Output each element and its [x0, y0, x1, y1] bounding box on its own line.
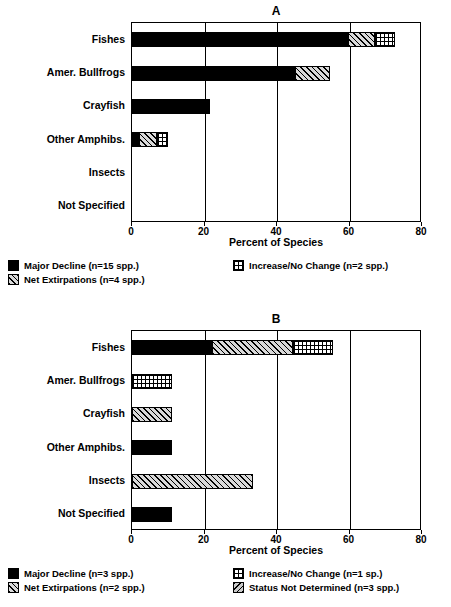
category-label: Other Amphibs.	[47, 441, 125, 453]
category-label: Not Specified	[58, 507, 125, 519]
bar-segment	[139, 132, 157, 147]
legend-swatch-icon	[233, 568, 244, 579]
gridline	[205, 331, 206, 529]
legend-label: Major Decline (n=15 spp.)	[24, 260, 139, 271]
panel-a: A FishesAmer. BullfrogsCrayfishOther Amp…	[0, 4, 451, 304]
legend-label: Net Extirpations (n=4 spp.)	[24, 274, 145, 285]
legend-row: Net Extirpations (n=2 spp.)Status Not De…	[8, 582, 448, 596]
legend-swatch-icon	[8, 274, 19, 285]
bar-segment	[132, 507, 172, 522]
bar-segment	[293, 340, 333, 355]
bar-segment	[132, 407, 172, 422]
legend-item: Increase/No Change (n=1 sp.)	[233, 568, 382, 579]
legend-swatch-icon	[8, 582, 19, 593]
panel-b-plot-area	[131, 330, 421, 530]
legend-swatch-icon	[8, 260, 19, 271]
panel-a-legend: Major Decline (n=15 spp.)Increase/No Cha…	[8, 260, 448, 288]
legend-item: Major Decline (n=3 spp.)	[8, 568, 134, 579]
legend-item: Net Extirpations (n=2 spp.)	[8, 582, 145, 593]
gridline	[350, 23, 351, 221]
legend-swatch-icon	[233, 582, 244, 593]
legend-label: Major Decline (n=3 spp.)	[24, 568, 134, 579]
bar-segment	[132, 474, 253, 489]
gridline	[205, 23, 206, 221]
bar-segment	[132, 374, 172, 389]
legend-label: Increase/No Change (n=2 spp.)	[249, 260, 388, 271]
bar-segment	[132, 32, 348, 47]
legend-label: Status Not Determined (n=3 spp.)	[249, 582, 399, 593]
legend-label: Increase/No Change (n=1 sp.)	[249, 568, 382, 579]
category-label: Not Specified	[58, 199, 125, 211]
panel-b-letter: B	[128, 312, 424, 326]
bar-segment	[132, 66, 295, 81]
legend-row: Major Decline (n=15 spp.)Increase/No Cha…	[8, 260, 448, 274]
bar-segment	[295, 66, 329, 81]
legend-item: Increase/No Change (n=2 spp.)	[233, 260, 388, 271]
bar-segment	[132, 132, 139, 147]
legend-swatch-icon	[8, 568, 19, 579]
category-label: Amer. Bullfrogs	[47, 66, 125, 78]
category-label: Insects	[89, 166, 125, 178]
category-label: Amer. Bullfrogs	[47, 374, 125, 386]
panel-a-x-axis-title: Percent of Species	[131, 236, 421, 248]
gridline	[277, 331, 278, 529]
gridline	[277, 23, 278, 221]
bar-segment	[212, 340, 294, 355]
bar-segment	[132, 440, 172, 455]
panel-b: B FishesAmer. BullfrogsCrayfishOther Amp…	[0, 312, 451, 607]
legend-label: Net Extirpations (n=2 spp.)	[24, 582, 145, 593]
gridline	[350, 331, 351, 529]
category-label: Other Amphibs.	[47, 133, 125, 145]
category-label: Fishes	[92, 341, 125, 353]
legend-row: Net Extirpations (n=4 spp.)	[8, 274, 448, 288]
panel-a-letter: A	[128, 4, 424, 18]
bar-segment	[132, 340, 212, 355]
category-label: Crayfish	[83, 99, 125, 111]
bar-segment	[348, 32, 375, 47]
legend-row: Major Decline (n=3 spp.)Increase/No Chan…	[8, 568, 448, 582]
panel-b-x-axis-title: Percent of Species	[131, 544, 421, 556]
bar-segment	[375, 32, 395, 47]
panel-a-plot-area	[131, 22, 421, 222]
bar-segment	[132, 99, 210, 114]
panel-b-category-labels: FishesAmer. BullfrogsCrayfishOther Amphi…	[0, 330, 125, 530]
legend-item: Major Decline (n=15 spp.)	[8, 260, 139, 271]
category-label: Fishes	[92, 33, 125, 45]
figure-root: A FishesAmer. BullfrogsCrayfishOther Amp…	[0, 0, 451, 607]
category-label: Insects	[89, 474, 125, 486]
category-label: Crayfish	[83, 407, 125, 419]
legend-swatch-icon	[233, 260, 244, 271]
panel-a-category-labels: FishesAmer. BullfrogsCrayfishOther Amphi…	[0, 22, 125, 222]
legend-item: Net Extirpations (n=4 spp.)	[8, 274, 145, 285]
bar-segment	[157, 132, 168, 147]
legend-item: Status Not Determined (n=3 spp.)	[233, 582, 399, 593]
panel-b-legend: Major Decline (n=3 spp.)Increase/No Chan…	[8, 568, 448, 596]
